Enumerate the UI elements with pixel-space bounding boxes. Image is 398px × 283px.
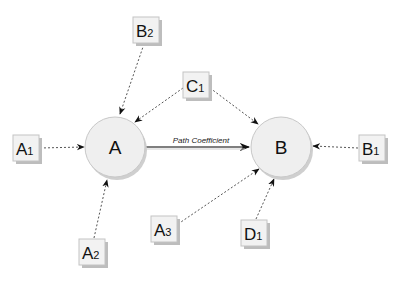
indicator-b2: B2	[133, 17, 162, 46]
indicator-c1: C1	[183, 72, 212, 101]
indicator-a2: A2	[79, 239, 108, 268]
node-a-label: A	[109, 137, 122, 158]
edge-a1-to-a	[40, 147, 84, 148]
indicator-a3: A3	[151, 216, 180, 245]
edge-b2-to-a	[120, 44, 144, 114]
edge-d1-to-b	[256, 179, 274, 219]
indicator-b1: B1	[359, 135, 388, 164]
edge-c1-to-a	[135, 88, 183, 122]
path-coefficient-label: Path Coefficient	[173, 136, 230, 145]
edge-c1-to-b	[210, 88, 258, 124]
indicator-a1: A1	[13, 135, 42, 164]
indicator-d1: D1	[241, 220, 270, 249]
edge-a2-to-a	[94, 180, 107, 238]
node-a: A	[85, 117, 147, 180]
edge-a3-to-b	[178, 169, 259, 224]
path-diagram: Path Coefficient A B B2 C1 A1 B1 A2	[0, 0, 398, 283]
node-b: B	[251, 117, 313, 180]
node-b-label: B	[275, 137, 288, 158]
edge-b1-to-b	[313, 146, 358, 148]
